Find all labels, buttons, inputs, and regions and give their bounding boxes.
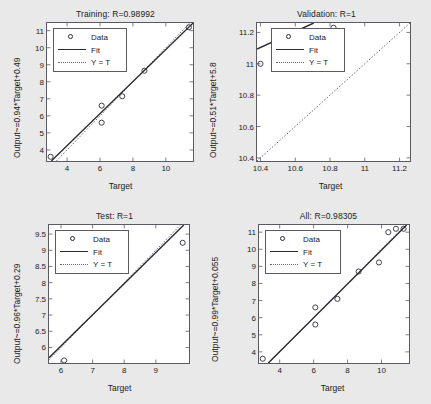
y-tick-label: 7.5 (35, 294, 46, 303)
regression-figure: Training: R=0.98992 Output~=0.94*Target+… (0, 0, 431, 404)
y-tick-label: 8.5 (35, 262, 46, 271)
x-tick-label: 6 (311, 366, 315, 375)
y-tick-label: 7 (40, 94, 44, 103)
legend-row-fit: Fit (59, 246, 124, 259)
x-tick-label: 4 (65, 164, 69, 173)
y-tick-label: 10.6 (238, 122, 254, 131)
circle-marker-icon (59, 233, 89, 245)
y-tick-label: 4 (252, 347, 256, 356)
y-tick-label: 9 (252, 262, 256, 271)
y-tick-label: 11 (248, 228, 256, 237)
y-tick-label: 11.2 (239, 28, 254, 37)
x-tick-label: 8 (131, 164, 135, 173)
y-tick-label: 7 (42, 311, 46, 320)
x-axis-label-all: Target (216, 383, 431, 393)
legend-label-fit: Fit (303, 248, 312, 257)
legend-label-fit: Fit (91, 46, 100, 55)
x-tick-label: 6 (98, 164, 102, 173)
plot-panel-all: All: R=0.98305 Output~=0.99*Target+0.055… (216, 202, 431, 404)
plot-title-test: Test: R=1 (0, 211, 215, 221)
plot-title-validation: Validation: R=1 (216, 9, 431, 19)
dotted-line-icon (275, 57, 305, 69)
legend-row-fit: Fit (275, 44, 340, 57)
y-axis-label-all: Output~=0.99*Target+0.055 (210, 257, 220, 362)
y-axis-label-training: Output~=0.94*Target+0.49 (12, 58, 22, 158)
legend-label-identity: Y = T (303, 260, 322, 269)
plot-title-training: Training: R=0.98992 (0, 9, 215, 19)
dotted-line-icon (269, 259, 299, 271)
y-tick-label: 10.8 (238, 91, 254, 100)
circle-marker-icon (57, 31, 87, 43)
legend-row-data: Data (57, 31, 122, 44)
dotted-line-icon (59, 259, 89, 271)
y-tick-label: 6 (42, 343, 46, 352)
x-tick-label: 6 (59, 366, 63, 375)
solid-line-icon (57, 44, 87, 56)
legend-label-identity: Y = T (93, 260, 112, 269)
x-tick-label: 8 (122, 366, 126, 375)
y-tick-label: 11 (246, 59, 254, 68)
legend-label-data: Data (309, 33, 326, 42)
legend-row-fit: Fit (269, 246, 336, 259)
legend-validation: Data Fit Y = T (271, 28, 345, 72)
legend-label-identity: Y = T (91, 58, 110, 67)
plot-area-training: 4567891011 46810 Data Fit Y = T (46, 22, 194, 162)
x-tick-label: 8 (345, 366, 349, 375)
legend-test: Data Fit Y = T (55, 230, 129, 274)
legend-label-data: Data (303, 235, 320, 244)
legend-label-data: Data (93, 235, 110, 244)
y-tick-label: 8 (252, 279, 256, 288)
y-tick-label: 6.5 (35, 327, 46, 336)
plot-area-test: 66.577.588.599.5 6789 Data Fit Y = T (48, 224, 190, 364)
circle-marker-icon (275, 31, 305, 43)
y-tick-label: 5 (40, 128, 44, 137)
solid-line-icon (275, 44, 305, 56)
y-tick-label: 9 (40, 60, 44, 69)
legend-label-fit: Fit (93, 248, 102, 257)
y-tick-label: 10.4 (238, 153, 254, 162)
legend-training: Data Fit Y = T (53, 28, 127, 72)
y-tick-label: 9.5 (35, 230, 46, 239)
legend-row-data: Data (275, 31, 340, 44)
x-tick-label: 4 (277, 366, 281, 375)
legend-all: Data Fit Y = T (265, 230, 341, 274)
x-axis-label-test: Target (0, 383, 215, 393)
x-tick-label: 10.6 (287, 164, 303, 173)
y-tick-label: 6 (40, 111, 44, 120)
y-tick-label: 4 (40, 145, 44, 154)
x-tick-label: 10.4 (253, 164, 269, 173)
y-tick-label: 9 (42, 246, 46, 255)
x-axis-label-validation: Target (216, 181, 431, 191)
y-tick-label: 8 (40, 77, 44, 86)
x-tick-label: 7 (90, 366, 94, 375)
y-axis-label-test: Output~=0.96*Target+0.29 (12, 264, 22, 364)
x-tick-label: 9 (154, 366, 158, 375)
plot-panel-validation: Validation: R=1 Output~=0.51*Target+5.8 … (216, 0, 431, 202)
legend-row-identity: Y = T (269, 258, 336, 271)
x-tick-label: 10 (377, 366, 386, 375)
y-tick-label: 8 (42, 278, 46, 287)
x-axis-label-training: Target (0, 181, 215, 191)
dotted-line-icon (57, 57, 87, 69)
y-axis-label-validation: Output~=0.51*Target+5.8 (208, 62, 218, 158)
legend-row-identity: Y = T (275, 56, 340, 69)
circle-marker-icon (269, 233, 299, 245)
x-tick-label: 10 (161, 164, 170, 173)
plot-area-all: 4567891011 46810 Data Fit Y = T (258, 224, 410, 364)
y-tick-label: 10 (35, 43, 44, 52)
plot-panel-training: Training: R=0.98992 Output~=0.94*Target+… (0, 0, 215, 202)
solid-line-icon (59, 246, 89, 258)
plot-area-validation: 10.410.610.81111.2 10.410.610.81111.2 Da… (256, 22, 411, 162)
legend-row-fit: Fit (57, 44, 122, 57)
x-tick-label: 11.2 (392, 164, 407, 173)
y-tick-label: 5 (252, 330, 256, 339)
y-tick-label: 6 (252, 313, 256, 322)
legend-label-data: Data (91, 33, 108, 42)
plot-panel-test: Test: R=1 Output~=0.96*Target+0.29 Targe… (0, 202, 215, 404)
legend-label-fit: Fit (309, 46, 318, 55)
solid-line-icon (269, 246, 299, 258)
legend-row-data: Data (59, 233, 124, 246)
x-tick-label: 11 (361, 164, 369, 173)
y-tick-label: 7 (252, 296, 256, 305)
x-tick-label: 10.8 (322, 164, 338, 173)
